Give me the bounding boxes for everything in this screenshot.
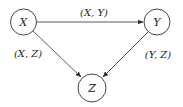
edge-y-z	[103, 32, 148, 77]
edge-x-z-label: (X, Z)	[14, 48, 42, 59]
node-z-label: Z	[87, 82, 96, 95]
edge-x-y-label: (X, Y)	[80, 7, 108, 18]
edge-y-z-label: (Y, Z)	[145, 49, 172, 60]
node-x: X	[11, 9, 37, 35]
node-x-label: X	[19, 16, 29, 29]
node-z: Z	[78, 74, 106, 102]
graph-diagram: X Y Z (X, Y) (X, Z) (Y, Z)	[0, 0, 183, 107]
node-y: Y	[144, 9, 170, 35]
